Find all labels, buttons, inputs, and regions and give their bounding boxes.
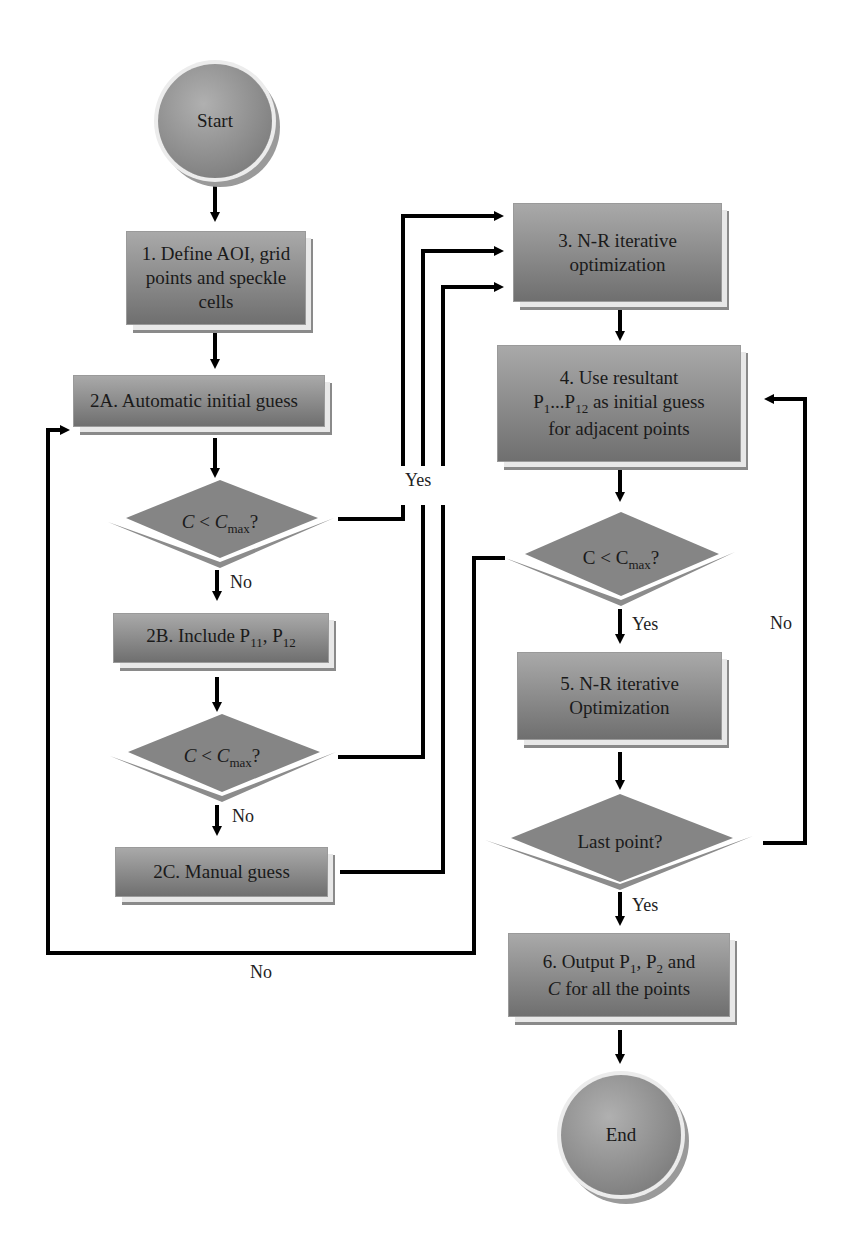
decision2-diamond: C < Cmax? — [106, 712, 338, 804]
start-node: Start — [158, 64, 272, 178]
decision3-diamond: C < Cmax? — [505, 512, 737, 608]
d4-no-loop-label: No — [770, 613, 792, 634]
decision4-last-point-diamond: Last point? — [485, 792, 755, 892]
step2b-label: 2B. Include P11, P12 — [146, 624, 296, 651]
step3-nr-optimization-box: 3. N-R iterative optimization — [513, 203, 722, 302]
decision1-label: C < Cmax? — [182, 511, 258, 537]
d3-yes-label: Yes — [632, 614, 658, 635]
d2-no-label: No — [232, 806, 254, 827]
decision1-diamond: C < Cmax? — [104, 478, 336, 570]
d4-yes-label: Yes — [632, 895, 658, 916]
step1-line1: 1. Define AOI, grid — [142, 242, 290, 266]
d1-no-label: No — [230, 572, 252, 593]
step2c-manual-guess-box: 2C. Manual guess — [115, 847, 328, 897]
decision2-label: C < Cmax? — [184, 745, 260, 771]
step5-line1: 5. N-R iterative — [560, 672, 679, 696]
d3-no-loop-label: No — [250, 962, 272, 983]
step6-line2: C for all the points — [548, 977, 691, 1001]
step6-output-box: 6. Output P1, P2 and C for all the point… — [508, 933, 730, 1017]
decision3-label: C < Cmax? — [583, 547, 659, 573]
step5-line2: Optimization — [569, 696, 669, 720]
decision4-label: Last point? — [578, 831, 663, 853]
step6-line1: 6. Output P1, P2 and — [543, 950, 695, 977]
step2a-label: 2A. Automatic initial guess — [90, 389, 298, 413]
step1-line2: points and speckle cells — [127, 266, 305, 314]
step4-line1: 4. Use resultant — [560, 366, 679, 390]
step4-use-resultant-box: 4. Use resultant P1...P12 as initial gue… — [497, 345, 741, 462]
end-node: End — [561, 1075, 681, 1195]
flowchart: Start 1. Define AOI, grid points and spe… — [0, 0, 845, 1258]
end-label: End — [606, 1124, 637, 1146]
start-label: Start — [197, 110, 233, 132]
step2b-include-box: 2B. Include P11, P12 — [113, 613, 329, 663]
step4-line3: for adjacent points — [548, 417, 689, 441]
step4-line2: P1...P12 as initial guess — [533, 390, 705, 417]
step2a-automatic-guess-box: 2A. Automatic initial guess — [73, 375, 325, 427]
step1-define-aoi-box: 1. Define AOI, grid points and speckle c… — [126, 231, 306, 325]
step5-nr-optimization-box: 5. N-R iterative Optimization — [517, 652, 722, 740]
yes-to-step3-label: Yes — [405, 470, 431, 491]
step3-line2: optimization — [569, 253, 665, 277]
step3-line1: 3. N-R iterative — [558, 229, 677, 253]
step2c-label: 2C. Manual guess — [153, 860, 290, 884]
